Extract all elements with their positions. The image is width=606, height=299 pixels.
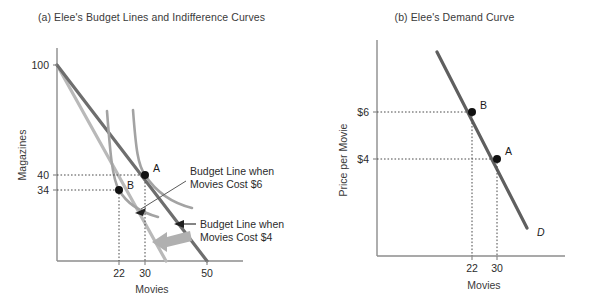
data-point-a [141, 171, 149, 179]
data-point-b [115, 186, 123, 194]
demand-curve-label: D [537, 226, 545, 238]
panel-a-ytick-label-100: 100 [31, 59, 49, 71]
panel-a-ytick-label-40: 40 [37, 169, 49, 181]
panel-a: (a) Elee's Budget Lines and Indifference… [0, 0, 303, 299]
demand-curve [437, 52, 527, 228]
panel-b-plot: B A D $6 $4 22 30 Movies Price per Movie [303, 0, 606, 299]
panel-b-xtick-label-30: 30 [491, 262, 503, 274]
figure-container: (a) Elee's Budget Lines and Indifference… [0, 0, 606, 299]
panel-b-ytick-label-6: $6 [357, 106, 369, 118]
panel-a-xtick-label-50: 50 [201, 267, 213, 279]
annotation-budget-line-6-line2: Movies Cost $6 [190, 178, 263, 190]
panel-a-xtick-label-22: 22 [113, 267, 125, 279]
panel-a-xtick-label-30: 30 [139, 267, 151, 279]
budget-line-movies-cost-4 [57, 65, 207, 261]
point-label-b: B [480, 99, 487, 111]
annotation-budget-line-4-line1: Budget Line when [200, 218, 284, 230]
panel-b: (b) Elee's Demand Curve B A D $6 [303, 0, 606, 299]
data-point-b [468, 108, 476, 116]
panel-b-ytick-label-4: $4 [357, 153, 369, 165]
panel-b-xtick-label-22: 22 [466, 262, 478, 274]
panel-b-yaxis-label: Price per Movie [337, 123, 349, 196]
annotation-budget-line-4-line2: Movies Cost $4 [200, 231, 273, 243]
panel-a-ytick-label-34: 34 [37, 184, 49, 196]
point-label-a: A [505, 145, 512, 157]
panel-a-xaxis-label: Movies [135, 283, 168, 295]
point-label-b: B [127, 179, 134, 191]
panel-a-yaxis-label: Magazines [16, 130, 28, 181]
indifference-curve-a [133, 110, 192, 208]
panel-b-xaxis-label: Movies [467, 279, 500, 291]
annotation-budget-line-6-line1: Budget Line when [190, 165, 274, 177]
panel-a-plot: A B 100 40 34 22 30 50 [0, 0, 303, 299]
data-point-a [493, 155, 501, 163]
point-label-a: A [153, 162, 160, 174]
